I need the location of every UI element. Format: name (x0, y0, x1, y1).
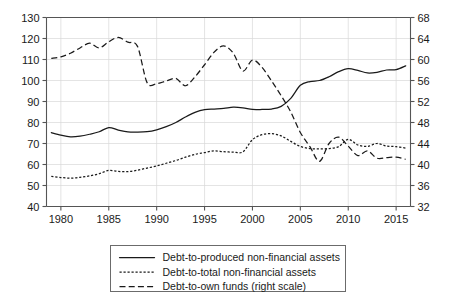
x-tick-label: 2000 (240, 213, 264, 225)
x-tick-label: 1980 (49, 213, 73, 225)
x-tick-label: 2015 (384, 213, 408, 225)
legend-label-1: Debt-to-produced non-financial assets (163, 251, 340, 263)
tick-marks (43, 18, 415, 211)
y-tick-label-right: 48 (418, 117, 430, 129)
grid-lines (47, 18, 411, 207)
y-tick-label-right: 60 (418, 54, 430, 66)
x-tick-label: 2010 (336, 213, 360, 225)
y-tick-label-right: 56 (418, 75, 430, 87)
y-tick-label-left: 100 (21, 75, 39, 87)
y-tick-label-right: 52 (418, 96, 430, 108)
legend-label-3: Debt-to-own funds (right scale) (163, 280, 307, 292)
y-tick-label-left: 40 (27, 201, 39, 213)
x-tick-label: 1985 (97, 213, 121, 225)
y-tick-label-left: 50 (27, 180, 39, 192)
chart-svg: 405060708090100110120130 323640444852566… (0, 0, 457, 301)
y-tick-label-right: 68 (418, 12, 430, 24)
chart-legend: Debt-to-produced non-financial assetsDeb… (111, 246, 346, 293)
chart-container: 405060708090100110120130 323640444852566… (0, 0, 457, 301)
x-axis-labels: 19801985199019952000200520102015 (49, 213, 409, 225)
y-tick-label-right: 44 (418, 138, 430, 150)
y-tick-label-left: 70 (27, 138, 39, 150)
x-tick-label: 2005 (288, 213, 312, 225)
series-path-2 (51, 134, 405, 179)
y-axis-left-labels: 405060708090100110120130 (21, 12, 39, 213)
y-tick-label-right: 40 (418, 159, 430, 171)
y-tick-label-right: 36 (418, 180, 430, 192)
y-tick-label-left: 130 (21, 12, 39, 24)
legend-label-2: Debt-to-total non-financial assets (163, 266, 317, 278)
y-tick-label-left: 80 (27, 117, 39, 129)
y-axis-right-labels: 32364044485256606468 (418, 12, 430, 213)
y-tick-label-left: 60 (27, 159, 39, 171)
data-series (51, 37, 405, 178)
series-path-3 (51, 37, 405, 161)
y-tick-label-left: 90 (27, 96, 39, 108)
x-tick-label: 1990 (144, 213, 168, 225)
y-tick-label-right: 64 (418, 33, 430, 45)
y-tick-label-left: 120 (21, 33, 39, 45)
axes (47, 18, 411, 207)
y-tick-label-right: 32 (418, 201, 430, 213)
y-tick-label-left: 110 (22, 54, 40, 66)
x-tick-label: 1995 (192, 213, 216, 225)
